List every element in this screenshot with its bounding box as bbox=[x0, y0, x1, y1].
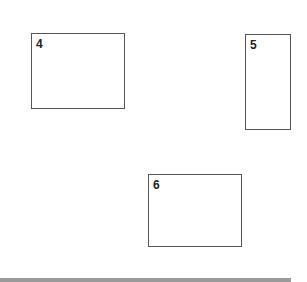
region-box-5: 5 bbox=[245, 34, 291, 130]
bottom-divider-bar bbox=[0, 278, 291, 282]
box-label-4: 4 bbox=[36, 38, 43, 50]
region-box-4: 4 bbox=[31, 33, 125, 109]
box-label-6: 6 bbox=[153, 179, 160, 191]
region-box-6: 6 bbox=[148, 174, 242, 247]
box-label-5: 5 bbox=[250, 39, 257, 51]
